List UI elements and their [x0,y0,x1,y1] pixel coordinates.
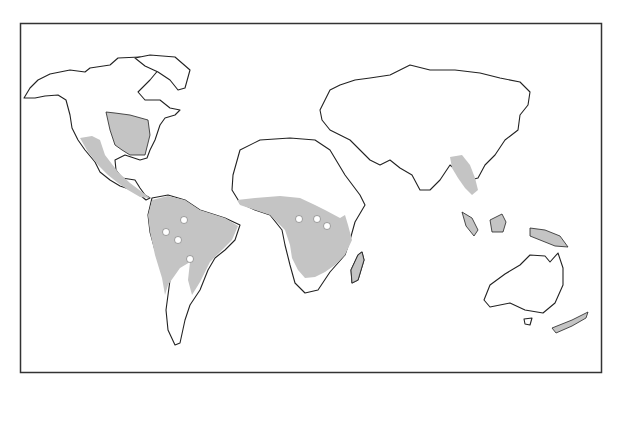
land-eurasia [320,65,530,190]
shaded-region-borneo [490,214,506,232]
marker [181,217,188,224]
world-map-final [0,0,638,426]
marker [175,237,182,244]
shaded-region-sumatra [462,212,478,236]
shaded-region-madagascar [351,252,364,283]
land-north-america [24,57,180,200]
land-australia [484,253,563,313]
marker [187,256,194,263]
marker [324,223,331,230]
land-tasmania [524,318,532,325]
shaded-region-new-zealand [552,312,588,333]
shaded-region-south-america [148,196,238,295]
shaded-region-new-guinea [530,228,568,247]
marker [163,229,170,236]
marker [296,216,303,223]
marker [314,216,321,223]
